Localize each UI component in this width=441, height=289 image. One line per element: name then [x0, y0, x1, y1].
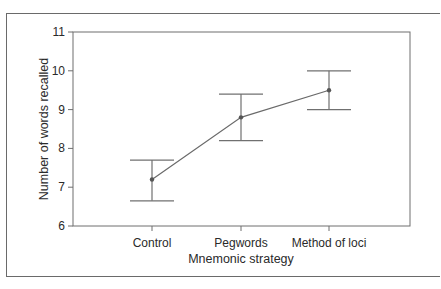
- x-tick-label: Pegwords: [214, 236, 267, 250]
- y-axis-label: Number of words recalled: [37, 58, 51, 200]
- y-tick-label: 7: [58, 180, 65, 194]
- y-ticks: 67891011: [52, 25, 73, 233]
- data-point: [239, 115, 243, 119]
- error-bars: [130, 71, 351, 201]
- y-tick-label: 11: [53, 25, 66, 39]
- y-tick-label: 6: [58, 219, 65, 233]
- data-point: [150, 177, 154, 181]
- x-axis-label: Mnemonic strategy: [188, 252, 294, 266]
- y-tick-label: 9: [58, 103, 65, 117]
- x-ticks: ControlPegwordsMethod of loci: [133, 226, 367, 250]
- y-tick-label: 10: [52, 64, 66, 78]
- data-point: [327, 88, 331, 92]
- chart: 67891011 ControlPegwordsMethod of loci M…: [0, 0, 441, 289]
- y-tick-label: 8: [58, 141, 65, 155]
- x-tick-label: Method of loci: [292, 236, 367, 250]
- x-tick-label: Control: [133, 236, 172, 250]
